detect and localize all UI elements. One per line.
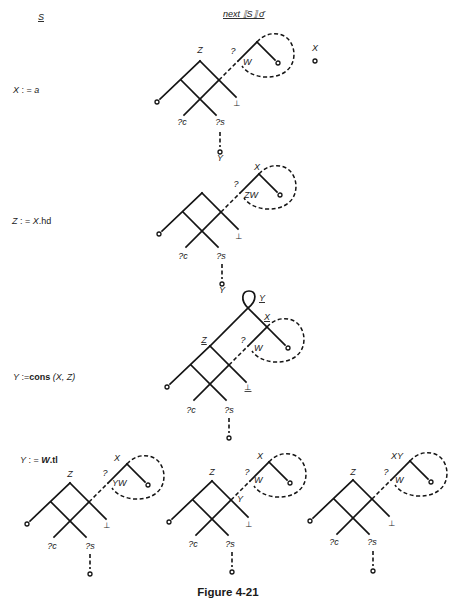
question-label: ? — [240, 335, 245, 345]
loop-top-label: X — [253, 162, 261, 172]
loop-entry-label: W — [254, 343, 264, 353]
diagram-after-y-assign-cons: Z Y X ? W ⊥ ?c ?s — [165, 291, 304, 440]
selector-s-label: ?s — [367, 537, 377, 547]
loop-entry-label: YW — [112, 478, 128, 488]
bottom-symbol: ⊥ — [389, 519, 396, 528]
figure-canvas: S next ⟦S⟧ σ̄ X : = a Z : = X.hd Y :=con… — [0, 0, 457, 599]
self-loop — [243, 291, 255, 308]
side-var-label: X — [311, 43, 319, 53]
question-label: ? — [102, 468, 107, 478]
question-label: ? — [233, 179, 238, 189]
statement-x-assign-a: X : = a — [12, 85, 39, 95]
selector-s-label: ?s — [215, 117, 225, 127]
tail-var-label: Y — [217, 153, 224, 163]
diagram-after-y-assign-w-tl-a: Z X ? YW ⊥ ?c ?s — [25, 453, 164, 576]
apex-label: Z — [66, 469, 73, 479]
question-label: ? — [244, 467, 249, 477]
selector-c-label: ?c — [188, 539, 198, 549]
apex-label: Z — [349, 467, 356, 477]
apex-label: Z — [200, 335, 207, 345]
apex-label: Z — [208, 467, 215, 477]
diagram-after-y-assign-w-tl-b: Z X ? W Y ⊥ ?c ?s — [167, 451, 306, 574]
selector-c-label: ?c — [186, 405, 196, 415]
loop-top-label: X — [113, 453, 121, 463]
question-label: ? — [383, 467, 388, 477]
top-label: Y — [259, 293, 266, 303]
loop-entry-label: W — [395, 475, 405, 485]
statement-y-assign-cons: Y :=cons (X, Z) — [13, 372, 75, 382]
right-node-label: Y — [237, 494, 244, 504]
semantics-column-heading: next ⟦S⟧ σ̄ — [223, 9, 266, 19]
statement-y-assign-w-tl: Y : = W.tl — [20, 455, 58, 465]
selector-c-label: ?c — [47, 541, 57, 551]
diagram-after-x-assign-a: Z ? W ⊥ ?c ?s Y — [155, 34, 294, 163]
selector-c-label: ?c — [177, 117, 187, 127]
apex-label: Z — [196, 45, 203, 55]
selector-c-label: ?c — [178, 251, 188, 261]
bottom-symbol: ⊥ — [234, 99, 241, 108]
selector-s-label: ?s — [225, 539, 235, 549]
bottom-symbol: ⊥ — [236, 232, 243, 241]
diagram-after-z-assign-x-hd: X ? ZW ⊥ ?c ?s Y — [157, 162, 296, 295]
bottom-symbol: ⊥ — [246, 520, 253, 529]
selector-s-label: ?s — [224, 405, 234, 415]
selector-s-label: ?s — [216, 251, 226, 261]
figure-caption: Figure 4-21 — [197, 586, 259, 598]
statement-column-heading: S — [38, 12, 44, 22]
bottom-symbol: ⊥ — [245, 383, 252, 392]
selector-s-label: ?s — [85, 541, 95, 551]
statement-z-assign-x-hd: Z : = X.hd — [11, 216, 51, 226]
bottom-symbol: ⊥ — [104, 521, 111, 530]
loop-entry-label: W — [243, 57, 253, 67]
loop-top-label: XY — [390, 451, 404, 461]
loop-entry-label: ZW — [243, 190, 259, 200]
loop-top-label: X — [256, 451, 264, 461]
question-label: ? — [230, 46, 235, 56]
selector-c-label: ?c — [329, 537, 339, 547]
tail-var-label: Y — [219, 285, 226, 295]
loop-top-label: X — [263, 312, 271, 322]
side-var-node — [313, 59, 317, 63]
diagram-after-y-assign-w-tl-c: Z XY ? W ⊥ ?c ?s — [308, 451, 447, 573]
loop-entry-label: W — [254, 475, 264, 485]
